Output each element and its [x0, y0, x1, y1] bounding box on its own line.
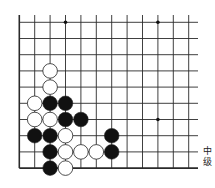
- white-stone: [58, 145, 73, 160]
- caption-line-1: 中: [203, 146, 212, 156]
- white-stone: [43, 80, 58, 95]
- caption-line-2: 级: [203, 157, 212, 167]
- go-board: [0, 0, 215, 188]
- black-stone: [43, 145, 58, 160]
- white-stone: [58, 161, 73, 176]
- black-stone: [104, 145, 119, 160]
- white-stone: [27, 112, 42, 127]
- black-stone: [43, 128, 58, 143]
- black-stone: [58, 96, 73, 111]
- black-stone: [43, 161, 58, 176]
- black-stone: [43, 96, 58, 111]
- white-stone: [74, 145, 89, 160]
- black-stone: [74, 112, 89, 127]
- black-stone: [27, 128, 42, 143]
- white-stone: [43, 64, 58, 79]
- star-point: [156, 118, 160, 122]
- white-stone: [27, 96, 42, 111]
- star-point: [64, 21, 68, 25]
- black-stone: [104, 128, 119, 143]
- black-stone: [58, 112, 73, 127]
- white-stone: [43, 112, 58, 127]
- white-stone: [58, 128, 73, 143]
- star-point: [156, 21, 160, 25]
- white-stone: [89, 145, 104, 160]
